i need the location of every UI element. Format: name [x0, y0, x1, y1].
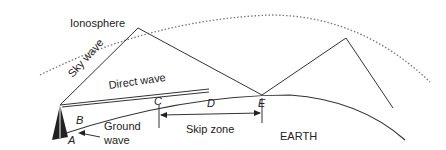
- ground-wave-label-line1: Ground: [104, 121, 141, 132]
- earth-label: EARTH: [280, 131, 317, 142]
- sky-wave-path: [60, 28, 393, 108]
- direct-wave-path: [60, 89, 209, 105]
- skip-zone-label: Skip zone: [186, 124, 234, 135]
- point-c-label: C: [154, 96, 162, 107]
- ground-wave-label-line2: wave: [104, 135, 130, 146]
- point-d-label: D: [207, 98, 215, 109]
- antenna-tower-icon: [52, 105, 68, 140]
- skip-zone-arrow: [161, 113, 260, 115]
- radio-propagation-diagram: Ionosphere Sky wave Direct wave Ground w…: [0, 0, 446, 150]
- point-e-label: E: [258, 98, 265, 109]
- ionosphere-label: Ionosphere: [70, 18, 125, 29]
- direct-wave-lower: [62, 92, 209, 107]
- point-b-label: B: [76, 115, 83, 126]
- point-a-label: A: [68, 135, 75, 146]
